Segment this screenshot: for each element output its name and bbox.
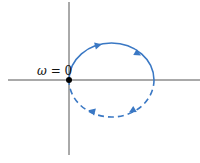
omega-symbol: ω: [37, 64, 47, 78]
origin-label: ω = 0: [37, 64, 72, 78]
arrow-lower-left-icon: [87, 107, 96, 116]
lower-curve-dashed: [69, 80, 154, 117]
upper-curve-solid: [69, 43, 154, 80]
arrow-upper-left-icon: [94, 41, 103, 50]
nyquist-diagram: [0, 0, 200, 163]
omega-value: = 0: [51, 64, 73, 78]
